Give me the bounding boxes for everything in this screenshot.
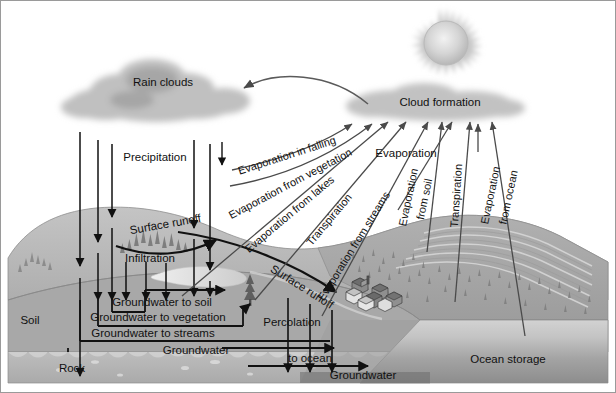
groundwater-to-soil-label: Groundwater to soil — [112, 296, 212, 308]
percolation-label: Percolation — [263, 316, 321, 328]
precipitation-label: Precipitation — [123, 151, 186, 163]
water-cycle-diagram: Rain clouds Cloud formation — [0, 0, 616, 393]
cloud-formation-label: Cloud formation — [399, 96, 480, 108]
ocean-storage-label: Ocean storage — [470, 353, 545, 365]
evaporation-label: Evaporation — [375, 147, 436, 159]
groundwater-to-streams-label: Groundwater to streams — [91, 327, 215, 339]
rock-label: Rock — [59, 362, 85, 374]
groundwater-mid-label: Groundwater — [163, 344, 230, 356]
rain-clouds-label: Rain clouds — [133, 76, 193, 88]
groundwater-bottom-label: Groundwater — [330, 369, 397, 381]
groundwater-to-vegetation-label: Groundwater to vegetation — [90, 311, 226, 323]
diagram-canvas: Rain clouds Cloud formation — [0, 0, 616, 393]
soil-label: Soil — [20, 314, 39, 326]
